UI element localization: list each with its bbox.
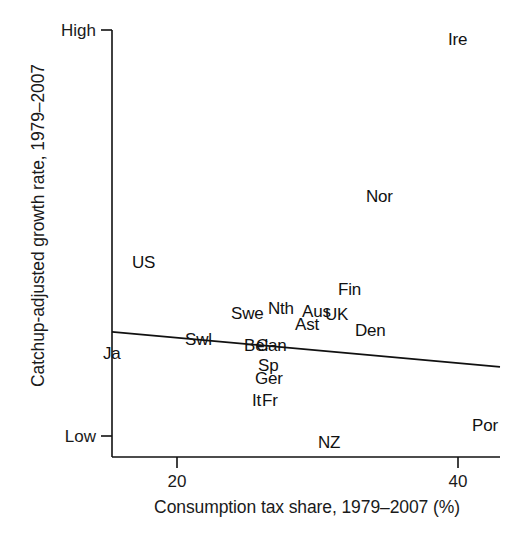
data-label-nz: NZ	[318, 434, 340, 451]
data-label-nth: Nth	[268, 300, 294, 317]
data-label-nor: Nor	[366, 188, 393, 205]
data-label-uk: UK	[325, 306, 348, 323]
data-label-por: Por	[472, 417, 498, 434]
x-tick-label-20: 20	[157, 472, 197, 492]
data-label-den: Den	[355, 322, 386, 339]
data-label-ger: Ger	[255, 370, 283, 387]
data-label-fr: Fr	[262, 392, 278, 409]
data-label-fin: Fin	[338, 281, 361, 298]
data-label-us: US	[132, 254, 155, 271]
data-label-ja: Ja	[103, 345, 121, 362]
plot-canvas	[0, 0, 525, 546]
scatter-plot-figure: Catchup-adjusted growth rate, 1979–2007 …	[0, 0, 525, 546]
data-label-ast: Ast	[295, 316, 319, 333]
x-axis-title: Consumption tax share, 1979–2007 (%)	[112, 497, 502, 518]
y-axis-title: Catchup-adjusted growth rate, 1979–2007	[28, 16, 49, 436]
y-tick-label-low: Low	[28, 427, 96, 447]
y-tick-label-high: High	[28, 21, 96, 41]
data-label-swe: Swe	[231, 305, 263, 322]
regression-fit-line	[112, 332, 500, 367]
clipped-caption	[0, 528, 525, 546]
data-label-ire: Ire	[448, 31, 467, 48]
data-label-swl: Swl	[185, 331, 212, 348]
data-label-it: It	[252, 392, 261, 409]
x-tick-label-40: 40	[438, 472, 478, 492]
data-label-can: Can	[256, 337, 287, 354]
